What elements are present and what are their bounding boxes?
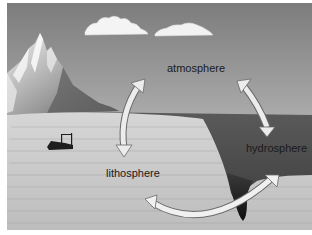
lithosphere-label: lithosphere <box>106 167 160 179</box>
atmosphere-label: atmosphere <box>167 62 225 74</box>
hydrosphere-label: hydrosphere <box>246 142 307 154</box>
earth-systems-diagram: atmosphere hydrosphere lithosphere <box>7 3 312 230</box>
